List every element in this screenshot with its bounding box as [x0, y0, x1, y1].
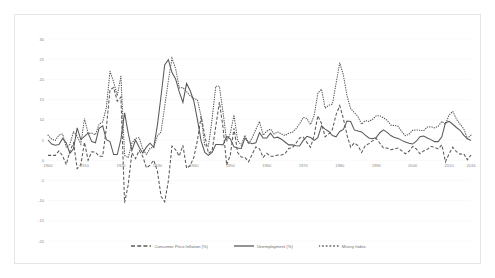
- y-axis-tick: 25: [39, 57, 44, 62]
- series-group: [48, 58, 471, 202]
- x-axis-tick: 1920: [116, 163, 126, 168]
- x-axis-tick: 1990: [372, 163, 382, 168]
- y-axis-tick: -10: [38, 198, 45, 203]
- legend-item-consumer-price-inflation[interactable]: Consumer Price Inflation (%): [131, 243, 208, 249]
- y-axis-tick: -5: [40, 178, 44, 183]
- legend-label-misery-index: Misery Index: [342, 244, 366, 249]
- x-axis-tick: 1970: [299, 163, 309, 168]
- x-axis-tick: 2010: [445, 163, 455, 168]
- y-axis-tick: 10: [39, 117, 44, 122]
- chart-plot-area: 302520151050-5-10-15-20 1900191019201930…: [15, 15, 482, 265]
- y-axis-tick: 5: [42, 138, 45, 143]
- x-axis-tick: 1900: [43, 163, 53, 168]
- line-chart-svg: 302520151050-5-10-15-20 1900191019201930…: [15, 15, 482, 265]
- legend-label-consumer-price-inflation: Consumer Price Inflation (%): [154, 244, 208, 249]
- x-axis-tick: 2016: [466, 163, 476, 168]
- legend-item-unemployment[interactable]: Unemployment (%): [234, 243, 293, 249]
- chart-card: 302520151050-5-10-15-20 1900191019201930…: [14, 14, 481, 264]
- y-axis-tick: 15: [39, 97, 44, 102]
- x-axis-tick: 1940: [189, 163, 199, 168]
- x-axis-tick-labels: 1900191019201930194019501960197019801990…: [43, 163, 476, 168]
- x-axis-tick: 1930: [153, 163, 163, 168]
- gridlines-group: [48, 39, 471, 241]
- chart-legend: Consumer Price Inflation (%) Unemploymen…: [15, 243, 482, 249]
- dotted-line-marker: [319, 243, 339, 249]
- y-axis-tick: 20: [39, 77, 44, 82]
- y-axis-tick: 30: [39, 37, 44, 42]
- x-axis-tick: 1960: [262, 163, 272, 168]
- x-axis-tick: 1980: [335, 163, 345, 168]
- y-axis-tick: 0: [42, 158, 45, 163]
- legend-item-misery-index[interactable]: Misery Index: [319, 243, 366, 249]
- dashed-line-marker: [131, 243, 151, 249]
- y-axis-tick: -15: [38, 218, 45, 223]
- legend-label-unemployment: Unemployment (%): [257, 244, 293, 249]
- y-axis-tick-labels: 302520151050-5-10-15-20: [38, 37, 45, 244]
- x-axis-tick: 2000: [408, 163, 418, 168]
- solid-line-marker: [234, 243, 254, 249]
